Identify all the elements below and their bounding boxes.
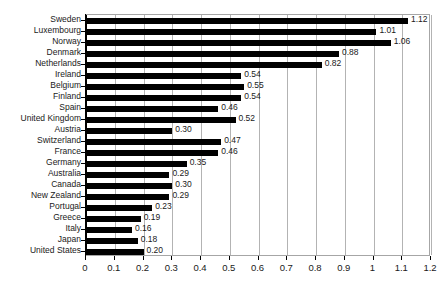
bar-value-label: 0.46: [221, 147, 238, 156]
bar: [86, 139, 221, 145]
y-axis-label-france: France: [0, 147, 81, 156]
x-axis-label-0-2: 0.2: [136, 262, 149, 273]
x-axis-label-1-1: 1.1: [395, 262, 408, 273]
x-axis-tick: [200, 256, 201, 260]
bar-value-label: 0.18: [141, 235, 158, 244]
x-axis-label-0-1: 0.1: [107, 262, 120, 273]
plot-area: [85, 14, 430, 256]
bar-value-label: 0.30: [175, 125, 192, 134]
bar: [86, 62, 322, 68]
y-axis-tick: [81, 185, 85, 186]
x-axis-label-1: 1: [370, 262, 375, 273]
y-axis-tick: [81, 119, 85, 120]
bar-value-label: 0.23: [155, 202, 172, 211]
y-axis-tick: [81, 251, 85, 252]
y-axis-label-norway: Norway: [0, 37, 81, 46]
x-axis-tick: [315, 256, 316, 260]
y-axis-tick: [81, 53, 85, 54]
bar-value-label: 0.19: [144, 213, 161, 222]
bar-value-label: 1.12: [411, 15, 428, 24]
x-axis-tick: [143, 256, 144, 260]
y-axis-category-labels: SwedenLuxembourgNorwayDenmarkNetherlands…: [0, 0, 81, 287]
y-axis-tick: [81, 31, 85, 32]
y-axis-tick: [81, 196, 85, 197]
y-axis-tick: [81, 86, 85, 87]
bar-value-label: 0.46: [221, 103, 238, 112]
x-axis-label-0-3: 0.3: [165, 262, 178, 273]
bar: [86, 51, 339, 57]
x-axis-label-0-8: 0.8: [308, 262, 321, 273]
bar: [86, 128, 172, 134]
y-axis-label-japan: Japan: [0, 235, 81, 244]
y-axis-label-canada: Canada: [0, 180, 81, 189]
bar-value-label: 0.16: [135, 224, 152, 233]
x-axis-tick: [171, 256, 172, 260]
bar-value-label: 0.55: [247, 81, 264, 90]
bar: [86, 205, 152, 211]
bar: [86, 238, 138, 244]
y-axis-tick: [81, 207, 85, 208]
y-axis-tick: [81, 130, 85, 131]
x-axis-label-1-2: 1.2: [423, 262, 436, 273]
y-axis-tick: [81, 20, 85, 21]
x-axis-tick: [114, 256, 115, 260]
gridline-1-2: [431, 15, 432, 255]
bar: [86, 84, 244, 90]
bar: [86, 29, 376, 35]
x-axis-tick: [373, 256, 374, 260]
y-axis-label-italy: Italy: [0, 224, 81, 233]
bar-value-label: 0.29: [172, 169, 189, 178]
bar: [86, 73, 241, 79]
y-axis-label-spain: Spain: [0, 103, 81, 112]
y-axis-label-greece: Greece: [0, 213, 81, 222]
bar-value-label: 0.47: [224, 136, 241, 145]
bar-value-label: 1.06: [394, 37, 411, 46]
bar-chart: SwedenLuxembourgNorwayDenmarkNetherlands…: [0, 0, 447, 287]
bar-value-label: 0.54: [244, 70, 261, 79]
x-axis-tick: [258, 256, 259, 260]
y-axis-label-belgium: Belgium: [0, 81, 81, 90]
bar: [86, 216, 141, 222]
bar: [86, 249, 144, 255]
bar-value-label: 0.20: [147, 246, 164, 255]
y-axis-tick: [81, 218, 85, 219]
bar-value-label: 0.52: [239, 114, 256, 123]
y-axis-label-sweden: Sweden: [0, 15, 81, 24]
x-axis-tick: [401, 256, 402, 260]
bar: [86, 106, 218, 112]
bar: [86, 227, 132, 233]
y-axis-label-united-states: United States: [0, 246, 81, 255]
bar: [86, 95, 241, 101]
x-axis-tick: [430, 256, 431, 260]
y-axis-line: [85, 14, 86, 256]
x-axis-label-0-9: 0.9: [337, 262, 350, 273]
x-axis-tick: [229, 256, 230, 260]
y-axis-tick: [81, 64, 85, 65]
bar: [86, 117, 236, 123]
y-axis-label-netherlands: Netherlands: [0, 59, 81, 68]
bar-value-label: 0.35: [190, 158, 207, 167]
x-axis-label-0: 0: [82, 262, 87, 273]
y-axis-tick: [81, 229, 85, 230]
y-axis-label-finland: Finland: [0, 92, 81, 101]
y-axis-label-luxembourg: Luxembourg: [0, 26, 81, 35]
bar-value-label: 0.30: [175, 180, 192, 189]
y-axis-tick: [81, 97, 85, 98]
bar-value-label: 1.01: [379, 26, 396, 35]
x-axis-label-0-6: 0.6: [251, 262, 264, 273]
bar-value-label: 0.54: [244, 92, 261, 101]
bar: [86, 161, 187, 167]
y-axis-tick: [81, 152, 85, 153]
x-axis-tick: [286, 256, 287, 260]
y-axis-label-austria: Austria: [0, 125, 81, 134]
x-axis-tick: [344, 256, 345, 260]
bar-value-label: 0.88: [342, 48, 359, 57]
y-axis-label-united-kingdom: United Kingdom: [0, 114, 81, 123]
y-axis-tick: [81, 108, 85, 109]
x-axis-tick: [85, 256, 86, 260]
y-axis-label-switzerland: Switzerland: [0, 136, 81, 145]
x-axis-label-0-5: 0.5: [222, 262, 235, 273]
y-axis-label-australia: Australia: [0, 169, 81, 178]
y-axis-label-germany: Germany: [0, 158, 81, 167]
gridline-1: [374, 15, 375, 255]
